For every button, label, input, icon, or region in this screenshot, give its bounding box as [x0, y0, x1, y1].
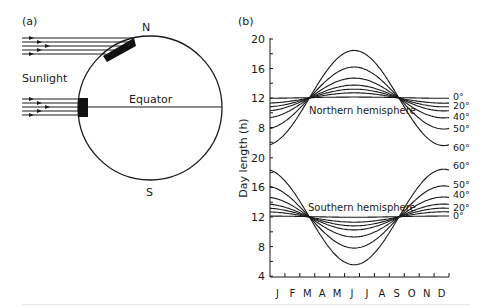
latitude-label-south: 60° [453, 160, 470, 171]
arrowhead-icon [29, 36, 34, 40]
north-pole-label: N [142, 21, 150, 34]
latitude-label-north: 60° [453, 142, 470, 153]
month-tick-label: J [350, 288, 354, 299]
month-tick-label: N [423, 288, 430, 299]
arrowhead-icon [29, 97, 34, 101]
panel-b-label: (b) [238, 15, 254, 28]
latitude-label-south: 40° [453, 189, 470, 200]
month-tick-label: J [364, 288, 368, 299]
y-tick-label: 8 [258, 241, 265, 254]
y-tick-label: 20 [251, 152, 265, 165]
arrowhead-icon [37, 48, 42, 52]
y-tick-label: 8 [258, 122, 265, 135]
arrowhead-icon [45, 105, 50, 109]
equator-illuminated-band [78, 98, 88, 117]
latitude-label-north: 40° [453, 111, 470, 122]
figure: (a) N S Sunlight Equator (b) Day length … [0, 0, 489, 308]
month-tick-label: M [303, 288, 312, 299]
arrowhead-icon [29, 52, 34, 56]
y-tick-label: 12 [251, 211, 265, 224]
arrowhead-icon [37, 109, 42, 113]
month-tick-label: F [289, 288, 295, 299]
arrowhead-icon [37, 40, 42, 44]
month-tick-label: A [319, 288, 326, 299]
panel-a: (a) N S Sunlight Equator [22, 15, 222, 199]
latitude-label-south: 50° [453, 179, 470, 190]
y-tick-label: 12 [251, 92, 265, 105]
panel-a-label: (a) [22, 15, 37, 28]
arrowhead-icon [45, 44, 50, 48]
month-tick-label: D [438, 288, 446, 299]
southern-hemisphere-curves [270, 169, 449, 264]
equator-sunrays [22, 97, 80, 117]
panel-b: (b) Day length (h) 812162048121620 JFMAM… [237, 15, 470, 299]
southern-hemisphere-label: Southern hemisphere [308, 202, 416, 213]
y-tick-label: 20 [251, 33, 265, 46]
earth-globe [78, 36, 222, 180]
latitude-label-north: 20° [453, 100, 470, 111]
y-tick-label: 16 [251, 181, 265, 194]
equator-label: Equator [129, 93, 173, 106]
y-tick-label: 16 [251, 63, 265, 76]
y-tick-label: 4 [258, 270, 265, 283]
arrowhead-icon [29, 113, 34, 117]
footer-divider [22, 304, 470, 305]
month-tick-label: O [408, 288, 416, 299]
latitude-label-south: 20° [453, 202, 470, 213]
month-tick-label: S [394, 288, 400, 299]
northern-hemisphere-label: Northern hemisphere [309, 105, 416, 116]
month-tick-label: A [378, 288, 385, 299]
latitude-labels: 0°20°40°50°60°0°20°40°50°60° [453, 91, 470, 221]
month-tick-label: J [275, 288, 279, 299]
month-tick-label: M [333, 288, 342, 299]
daylength-curve-0deg [270, 97, 449, 98]
y-axis-label: Day length (h) [237, 118, 250, 197]
sunlight-label: Sunlight [22, 72, 68, 85]
daylength-curve-0deg [270, 216, 449, 217]
arrowhead-icon [37, 101, 42, 105]
northern-hemisphere-curves [270, 50, 449, 145]
latitude-label-north: 50° [453, 123, 470, 134]
south-pole-label: S [146, 186, 153, 199]
